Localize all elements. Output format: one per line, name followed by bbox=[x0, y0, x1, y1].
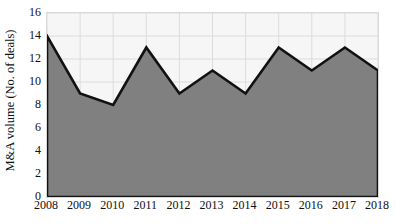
x-axis-tick-label: 2018 bbox=[365, 199, 389, 212]
y-axis-tick-label: 16 bbox=[29, 6, 41, 18]
y-axis-tick-label: 6 bbox=[35, 121, 41, 133]
x-axis-tick-label: 2010 bbox=[100, 199, 124, 212]
plot-area bbox=[46, 12, 379, 198]
area-chart-svg bbox=[47, 13, 378, 197]
x-axis-tick-label: 2008 bbox=[34, 199, 58, 212]
x-axis-tick-label: 2014 bbox=[233, 199, 257, 212]
x-axis-tick-label: 2012 bbox=[166, 199, 190, 212]
x-axis-tick-label: 2015 bbox=[266, 199, 290, 212]
y-axis-tick-label: 12 bbox=[29, 52, 41, 64]
chart-figure: M&A volume (No. of deals) 1614121086420 … bbox=[0, 0, 395, 224]
y-axis-tick-label: 4 bbox=[35, 144, 41, 156]
y-axis-tick-label: 10 bbox=[29, 75, 41, 87]
x-axis-tick-label: 2009 bbox=[67, 199, 91, 212]
x-axis-tick-label: 2016 bbox=[299, 199, 323, 212]
y-axis-title-text: M&A volume (No. of deals) bbox=[3, 29, 18, 171]
x-axis-tick-label: 2011 bbox=[134, 199, 158, 212]
x-axis-tick-labels: 2008200920102011201220132014201520162017… bbox=[46, 199, 377, 221]
x-axis-tick-label: 2013 bbox=[200, 199, 224, 212]
y-axis-tick-labels: 1614121086420 bbox=[20, 0, 44, 210]
y-axis-tick-label: 8 bbox=[35, 98, 41, 110]
y-axis-tick-label: 14 bbox=[29, 29, 41, 41]
x-axis-tick-label: 2017 bbox=[332, 199, 356, 212]
y-axis-title: M&A volume (No. of deals) bbox=[0, 0, 20, 200]
y-axis-tick-label: 2 bbox=[35, 167, 41, 179]
